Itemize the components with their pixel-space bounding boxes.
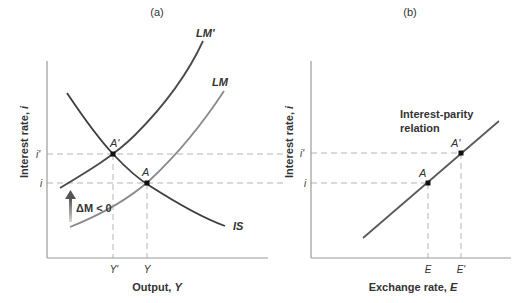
lm-prime-label: LM' [196,27,215,39]
panel-a: (a) ΔM < 0 A' A LM' LM IS i' [18,6,286,293]
b-point-a-prime-label: A' [450,137,461,149]
diagram-canvas: (a) ΔM < 0 A' A LM' LM IS i' [0,0,524,303]
is-label: IS [233,220,244,232]
panel-b: (b) A A' Interest-parity relation i' i E… [283,6,511,293]
y-tick-i: i [40,178,43,189]
panel-a-x-axis-label: Output, Y [132,281,183,293]
x-tick-y-prime: Y' [110,264,120,275]
y-tick-i-prime: i' [36,149,41,160]
shift-annotation: ΔM < 0 [76,202,112,214]
interest-parity-label-line1: Interest-parity [400,108,474,120]
b-point-a-label: A [418,167,426,179]
point-a [145,181,150,186]
lm-label: LM [212,76,229,88]
point-a-label: A [141,166,149,178]
interest-parity-label-line2: relation [400,122,440,134]
panel-a-title: (a) [150,6,163,18]
panel-a-y-axis-label: Interest rate, i [18,105,30,178]
b-point-a-prime [459,151,464,156]
b-y-tick-i: i [304,178,307,189]
x-tick-y: Y [144,264,152,275]
interest-parity-line [363,121,499,238]
b-point-a [426,181,431,186]
panel-b-x-axis-label: Exchange rate, E [369,281,458,293]
x-tick-e: E [425,264,432,275]
panel-b-y-axis-label: Interest rate, i [283,105,295,178]
b-y-tick-i-prime: i' [300,148,305,159]
x-tick-e-prime: E' [457,264,467,275]
money-decrease-arrow-icon [65,190,76,222]
panel-b-guides [311,153,461,258]
point-a-prime [111,152,116,157]
point-a-prime-label: A' [109,137,120,149]
panel-b-title: (b) [403,6,416,18]
